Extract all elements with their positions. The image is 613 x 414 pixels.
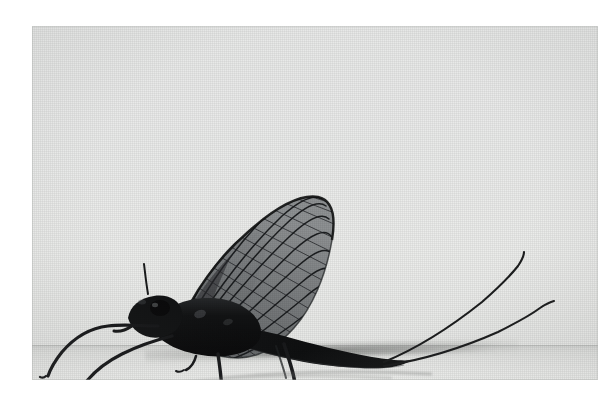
photograph bbox=[32, 26, 598, 380]
cercus bbox=[384, 252, 524, 362]
tail-filaments bbox=[384, 252, 554, 366]
cercus bbox=[384, 301, 554, 366]
mayfly-figure bbox=[32, 26, 598, 380]
foreleg bbox=[79, 336, 172, 380]
midleg bbox=[218, 354, 222, 380]
antenna bbox=[144, 264, 148, 294]
compound-eye bbox=[150, 300, 170, 316]
photo-page: Black and white photograph of a mayfly s… bbox=[0, 0, 613, 414]
